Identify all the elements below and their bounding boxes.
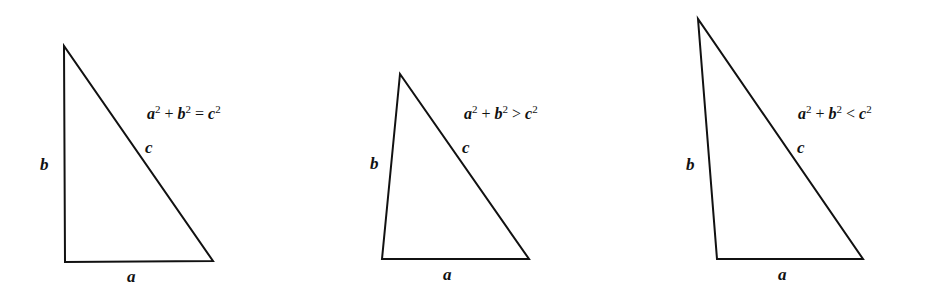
eq-plus: +: [478, 105, 495, 122]
eq-relation: >: [508, 105, 525, 122]
label-a-obtuse: a: [778, 266, 787, 283]
right-triangle-shape: [64, 46, 213, 262]
eq-a: a: [464, 105, 472, 122]
eq-relation: <: [842, 105, 859, 122]
label-b-right: b: [40, 156, 49, 173]
equation-right: a2 + b2 = c2: [147, 104, 221, 122]
eq-relation: =: [191, 105, 208, 122]
eq-a: a: [798, 105, 806, 122]
eq-b: b: [495, 105, 503, 122]
eq-a: a: [147, 105, 155, 122]
label-b-obtuse: b: [686, 156, 695, 173]
equation-obtuse: a2 + b2 < c2: [798, 104, 872, 122]
eq-exp: 2: [532, 103, 538, 115]
eq-plus: +: [161, 105, 178, 122]
eq-exp: 2: [215, 103, 221, 115]
eq-b: b: [829, 105, 837, 122]
label-a-right: a: [127, 268, 136, 285]
label-c-acute: c: [462, 139, 470, 156]
eq-exp: 2: [866, 103, 872, 115]
equation-acute: a2 + b2 > c2: [464, 104, 538, 122]
label-c-right: c: [145, 139, 153, 156]
obtuse-triangle-shape: [698, 19, 863, 259]
acute-triangle-shape: [382, 74, 529, 259]
eq-b: b: [178, 105, 186, 122]
eq-plus: +: [812, 105, 829, 122]
label-b-acute: b: [370, 155, 379, 172]
label-c-obtuse: c: [797, 139, 805, 156]
label-a-acute: a: [443, 266, 452, 283]
